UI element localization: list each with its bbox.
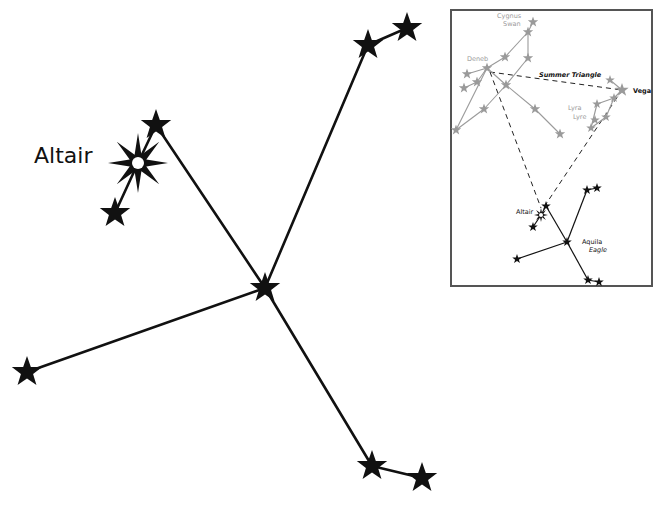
lyra-common-label: Lyre [573,113,586,121]
altair-inset-star-icon [534,208,548,222]
constellation-line [265,288,372,466]
star-icon [407,462,437,491]
star-icon [141,109,171,138]
summer-triangle-inset-map: Cygnus Swan Deneb Summer Triangle Vega L… [451,10,652,286]
star-icon [392,12,422,41]
main-constellation-stars [12,12,437,491]
aquila-constellation-diagram: Altair Cygnus Swan Deneb Summer Triangle… [0,0,662,507]
altair-bright-star-icon [108,133,168,193]
lyra-label: Lyra [568,104,582,112]
main-constellation-lines [27,28,422,478]
cygnus-common-label: Swan [503,20,521,28]
altair-inset-label: Altair [516,208,534,216]
vega-label: Vega [633,87,651,95]
summer-triangle-label: Summer Triangle [539,71,602,79]
constellation-line [156,125,265,288]
altair-star-center [132,157,144,169]
deneb-label: Deneb [467,55,488,63]
constellation-line [27,288,265,372]
inset-frame [451,10,652,286]
altair-inset-star-center [539,213,543,217]
star-icon [250,272,280,301]
star-icon [353,29,383,58]
aquila-label: Aquila [582,238,602,246]
star-icon [12,356,42,385]
cygnus-label: Cygnus [497,12,522,20]
altair-label: Altair [34,143,93,168]
star-icon [100,197,130,226]
aquila-common-label: Eagle [589,246,607,254]
constellation-line [265,45,368,288]
star-icon [357,450,387,479]
